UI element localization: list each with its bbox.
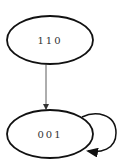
node-001: 001 — [7, 110, 93, 158]
node-label-110: 110 — [37, 35, 62, 46]
node-label-001: 001 — [37, 129, 62, 140]
state-diagram: 110 001 — [0, 0, 121, 165]
node-110: 110 — [7, 16, 93, 64]
